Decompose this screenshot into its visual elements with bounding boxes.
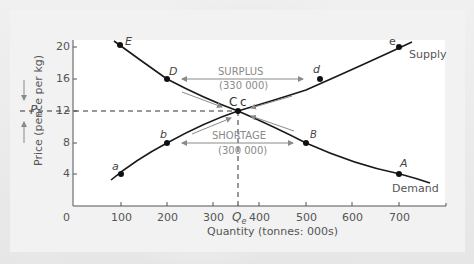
x-tick-600: 600 <box>342 211 363 224</box>
shortage-label: SHORTAGE <box>212 130 266 141</box>
x-tick-500: 500 <box>296 211 317 224</box>
label-D: D <box>169 65 177 78</box>
x-tick-200: 200 <box>157 211 178 224</box>
y-tick-4: 4 <box>63 167 70 180</box>
surplus-value: (330 000) <box>219 80 268 91</box>
label-a: a <box>112 160 119 173</box>
y-tick-12: 12 <box>56 104 70 117</box>
surplus-label: SURPLUS <box>218 66 263 77</box>
label-b: b <box>160 128 167 141</box>
label-e: e <box>389 35 396 48</box>
x-tick-300: 300 <box>203 211 224 224</box>
label-B: B <box>310 129 317 140</box>
x-tick-700: 700 <box>389 211 410 224</box>
x-tick-0: 0 <box>63 211 70 224</box>
y-tick-16: 16 <box>56 72 70 85</box>
y-tick-20: 20 <box>56 40 70 53</box>
x-tick-100: 100 <box>111 211 132 224</box>
y-axis-title: Price (pence per kg) <box>32 51 45 171</box>
chart-frame: 20 16 12 8 4 Pe Price (pence per kg) 0 1… <box>0 0 474 264</box>
label-A: A <box>400 157 408 170</box>
qe-label: Qe <box>232 210 246 226</box>
y-tick-8: 8 <box>63 136 70 149</box>
label-E: E <box>125 35 132 48</box>
shortage-value: (300 000) <box>218 145 267 156</box>
supply-label: Supply <box>409 48 447 61</box>
demand-label: Demand <box>392 182 439 195</box>
x-tick-400: 400 <box>249 211 270 224</box>
x-axis-title: Quantity (tonnes: 000s) <box>207 225 338 238</box>
label-c: c <box>240 95 247 109</box>
label-C: C <box>229 95 237 109</box>
label-d: d <box>313 63 320 76</box>
